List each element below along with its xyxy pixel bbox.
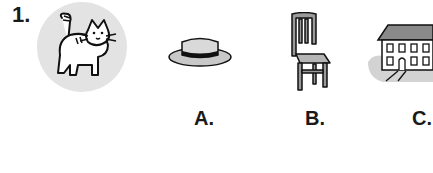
option-c-label[interactable]: C. bbox=[412, 107, 432, 130]
house-icon[interactable] bbox=[368, 20, 433, 82]
option-b-label[interactable]: B. bbox=[305, 107, 325, 130]
option-a-label[interactable]: A. bbox=[194, 107, 214, 130]
hat-icon[interactable] bbox=[168, 35, 233, 68]
cat-icon bbox=[50, 10, 120, 85]
question-number: 1. bbox=[12, 2, 30, 28]
chair-icon[interactable] bbox=[289, 12, 334, 92]
